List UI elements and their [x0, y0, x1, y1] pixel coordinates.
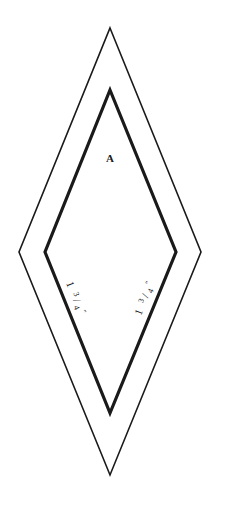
dimension-label-lower-right: 1 3 / 4 "	[129, 279, 158, 318]
dimension-slash: /	[71, 297, 84, 305]
piece-label: A	[106, 152, 114, 164]
dimension-denominator: 4	[146, 287, 156, 294]
dimension-denominator: 4	[72, 304, 82, 311]
dimension-whole: 1	[132, 307, 145, 317]
diamond-template-diagram: A 1 3 / 4 " 1 3 / 4 "	[0, 0, 234, 506]
dimension-numerator: 3	[72, 291, 82, 298]
dimension-unit: "	[144, 280, 154, 286]
dimension-unit: "	[79, 309, 89, 315]
svg-text:1 3 / 4: 1 3 / 4 "	[62, 278, 91, 317]
dimension-whole: 1	[64, 279, 77, 289]
dimension-label-lower-left: 1 3 / 4 "	[62, 278, 91, 317]
svg-text:1 3 / 4: 1 3 / 4 "	[129, 279, 158, 318]
dimension-numerator: 3	[136, 297, 146, 304]
